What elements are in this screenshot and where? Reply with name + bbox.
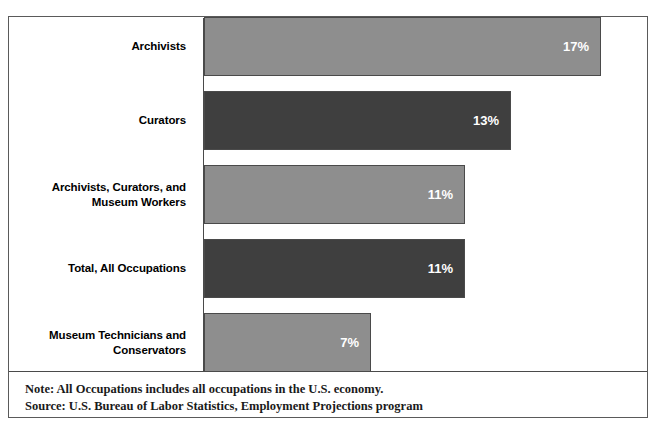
bar-value-label: 7% (340, 335, 370, 350)
chart-source-text: Source: U.S. Bureau of Labor Statistics,… (25, 398, 647, 415)
bar-total-all-occupations: 11% (204, 239, 465, 298)
category-label-archivists: Archivists (9, 17, 195, 76)
category-label-line2: Museum Workers (92, 196, 186, 208)
chart-plot-area: Archivists 17% Curators 13% Archivists, … (9, 17, 647, 372)
category-label-curators: Curators (9, 91, 195, 150)
chart-row: Museum Technicians and Conservators 7% (9, 313, 647, 372)
category-axis-line (203, 18, 204, 371)
category-label-line1: Archivists (131, 40, 186, 52)
category-label-museum-technicians-conservators: Museum Technicians and Conservators (9, 313, 195, 372)
chart-note-text: Note: All Occupations includes all occup… (25, 381, 647, 398)
chart-row: Archivists 17% (9, 17, 647, 76)
chart-row: Archivists, Curators, and Museum Workers… (9, 165, 647, 224)
category-label-line1: Museum Technicians and (49, 329, 186, 341)
bar-value-label: 11% (428, 187, 464, 202)
bar-archivists: 17% (204, 17, 601, 76)
bar-archivists-curators-museum-workers: 11% (204, 165, 465, 224)
chart-row: Total, All Occupations 11% (9, 239, 647, 298)
chart-notes: Note: All Occupations includes all occup… (9, 372, 647, 417)
category-label-line1: Total, All Occupations (68, 262, 186, 274)
bar-value-label: 17% (563, 39, 600, 54)
chart-figure: Archivists 17% Curators 13% Archivists, … (8, 16, 648, 418)
category-label-total-all-occupations: Total, All Occupations (9, 239, 195, 298)
category-label-line2: Conservators (113, 344, 186, 356)
bar-museum-technicians-conservators: 7% (204, 313, 371, 372)
category-label-line1: Curators (139, 114, 186, 126)
bar-value-label: 13% (473, 113, 510, 128)
bar-curators: 13% (204, 91, 511, 150)
category-label-archivists-curators-museum-workers: Archivists, Curators, and Museum Workers (9, 165, 195, 224)
bar-value-label: 11% (428, 261, 464, 276)
chart-row: Curators 13% (9, 91, 647, 150)
category-label-line1: Archivists, Curators, and (52, 181, 186, 193)
